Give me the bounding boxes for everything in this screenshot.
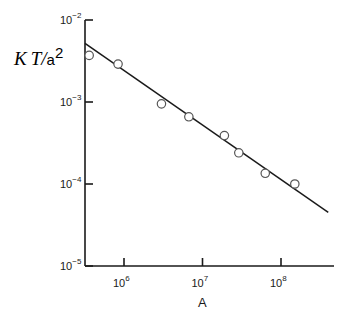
data-point [235, 149, 243, 157]
data-point [220, 131, 228, 139]
x-ticks: 106107108 [113, 258, 287, 289]
y-ticks: 10−210−310−410−5 [60, 11, 93, 272]
data-point [85, 51, 93, 59]
y-tick-label: 10−5 [60, 257, 82, 272]
x-tick-label: 106 [113, 274, 130, 289]
data-point [114, 60, 122, 68]
data-point [185, 113, 193, 121]
y-tick-label: 10−3 [60, 93, 82, 108]
y-tick-label: 10−2 [60, 11, 82, 26]
data-point [157, 100, 165, 108]
data-points [85, 51, 299, 188]
chart: 10−210−310−410−5 106107108 KT/a2 A [0, 0, 346, 318]
data-point [261, 169, 269, 177]
x-tick-label: 108 [270, 274, 287, 289]
y-tick-label: 10−4 [60, 175, 82, 190]
y-axis-label: KT/a2 [13, 44, 63, 69]
x-axis-label: A [198, 295, 207, 310]
x-tick-label: 107 [192, 274, 209, 289]
data-point [291, 180, 299, 188]
axes [85, 20, 334, 266]
